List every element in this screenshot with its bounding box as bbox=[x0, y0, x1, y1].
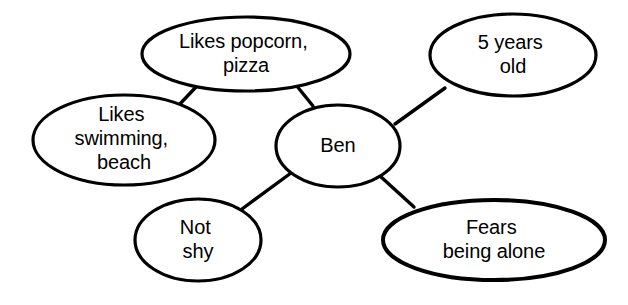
node-ben-label: Ben bbox=[320, 134, 355, 156]
concept-map-svg: Likes popcorn, pizza 5 years old Likes s… bbox=[0, 0, 628, 305]
node-popcorn[interactable]: Likes popcorn, pizza bbox=[142, 17, 350, 91]
node-age[interactable]: 5 years old bbox=[430, 14, 596, 96]
node-notshy[interactable]: Not shy bbox=[135, 199, 261, 281]
edge-popcorn-ben bbox=[296, 85, 313, 106]
node-swimming[interactable]: Likes swimming, beach bbox=[33, 95, 215, 185]
diagram-canvas: Likes popcorn, pizza 5 years old Likes s… bbox=[0, 0, 628, 305]
edge-ben-notshy bbox=[242, 173, 291, 209]
edge-ben-fears bbox=[380, 176, 414, 207]
node-fears[interactable]: Fears being alone bbox=[383, 200, 605, 280]
node-ben[interactable]: Ben bbox=[276, 105, 400, 187]
edge-ben-age bbox=[395, 88, 445, 124]
